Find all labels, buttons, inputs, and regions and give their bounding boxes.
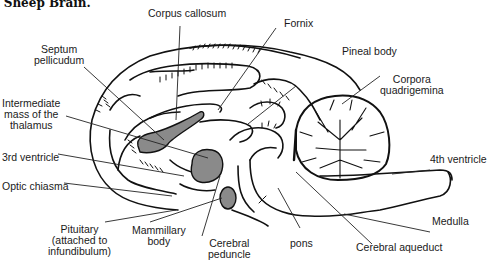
label-mammillary-body: Mammillary body xyxy=(132,225,186,247)
label-cerebral-peduncle: Cerebral peduncle xyxy=(208,238,251,260)
label-pituitary-line3: infundibulum) xyxy=(48,246,111,257)
label-septum-line2: pellicudum xyxy=(34,55,84,66)
label-intermediate-mass: Intermediate mass of the thalamus xyxy=(2,98,60,131)
label-peduncle-line2: peduncle xyxy=(208,249,251,260)
label-optic-chiasma: Optic chiasma xyxy=(2,181,69,192)
label-pons: pons xyxy=(290,238,313,249)
label-cerebral-aqueduct: Cerebral aqueduct xyxy=(356,242,442,253)
cerebrum-outline xyxy=(90,45,360,210)
label-pineal-body: Pineal body xyxy=(342,46,397,57)
mammillary-body-shape xyxy=(220,187,236,209)
label-intermediate-line3: thalamus xyxy=(2,120,60,131)
label-fornix: Fornix xyxy=(284,18,313,29)
label-pituitary: Pituitary (attached to infundibulum) xyxy=(48,224,111,257)
label-corpora-quadrigemina: Corpora quadrigemina xyxy=(380,74,444,96)
label-septum-pellucidum: Septum pellicudum xyxy=(34,44,84,66)
label-corpus-callosum: Corpus callosum xyxy=(148,8,226,19)
label-third-ventricle: 3rd ventricle xyxy=(2,152,59,163)
label-medulla: Medulla xyxy=(432,216,469,227)
label-fourth-ventricle: 4th ventricle xyxy=(430,154,487,165)
label-corpora-line2: quadrigemina xyxy=(380,85,444,96)
label-mammillary-line2: body xyxy=(132,236,186,247)
